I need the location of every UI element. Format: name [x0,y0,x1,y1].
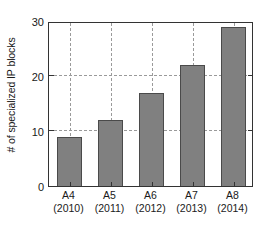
x-axis-tick-label: A8(2014) [217,189,247,215]
x-axis-tick-label: A4(2010) [53,189,83,215]
y-tick-mark [49,130,54,131]
bar [139,93,164,187]
x-axis-tick-label-name: A4 [62,189,75,201]
x-axis-tick-label-year: (2013) [176,202,206,215]
x-axis-tick-label-year: (2012) [135,202,165,215]
bar [57,137,82,187]
x-axis-tick-label: A6(2012) [135,189,165,215]
x-axis-tick-label-year: (2014) [217,202,247,215]
y-axis-tick-label: 20 [18,72,48,83]
x-tick-mark [193,182,194,187]
bar [180,65,205,186]
y-axis-tick-label: 30 [18,17,48,28]
x-tick-mark [70,182,71,187]
x-axis-tick-labels: A4(2010)A5(2011)A6(2012)A7(2013)A8(2014) [48,189,253,227]
bar [221,27,246,187]
y-tick-mark [248,130,253,131]
y-axis-tick-label: 0 [18,182,48,193]
plot-area [48,22,253,187]
x-axis-tick-label: A5(2011) [95,189,125,215]
x-axis-tick-label-year: (2010) [53,202,83,215]
x-axis-tick-label-name: A7 [185,189,198,201]
y-axis-tick-labels: 0102030 [18,0,48,227]
y-tick-mark [49,75,54,76]
x-axis-tick-label-year: (2011) [95,202,125,215]
y-axis-label-text: # of specialized IP blocks [5,37,17,152]
x-axis-tick-label-name: A8 [226,189,239,201]
bar-chart-figure: # of specialized IP blocks 0102030 A4(20… [0,0,268,227]
x-tick-mark [111,182,112,187]
y-axis-tick-label: 10 [18,127,48,138]
x-axis-tick-label: A7(2013) [176,189,206,215]
x-axis-tick-label-name: A6 [144,189,157,201]
bar [98,120,123,186]
y-tick-mark [248,75,253,76]
x-axis-tick-label-name: A5 [103,189,116,201]
x-tick-mark [152,182,153,187]
x-tick-mark [234,182,235,187]
